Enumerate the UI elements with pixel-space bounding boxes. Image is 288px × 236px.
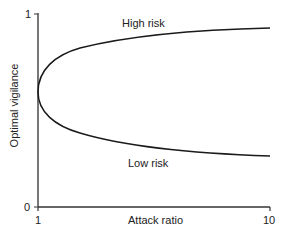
y-axis-label: Optimal vigilance: [9, 61, 20, 151]
y-tick-label-max: 1: [25, 9, 31, 20]
y-tick-label-min: 0: [24, 202, 30, 213]
chart-canvas: [0, 0, 288, 236]
x-tick-label-min: 1: [35, 215, 41, 226]
high-risk-label: High risk: [122, 18, 165, 29]
high-risk-curve: [38, 28, 270, 92]
x-axis-label: Attack ratio: [128, 215, 183, 226]
x-tick-label-max: 10: [263, 215, 275, 226]
low-risk-label: Low risk: [128, 158, 168, 169]
low-risk-curve: [38, 92, 270, 156]
